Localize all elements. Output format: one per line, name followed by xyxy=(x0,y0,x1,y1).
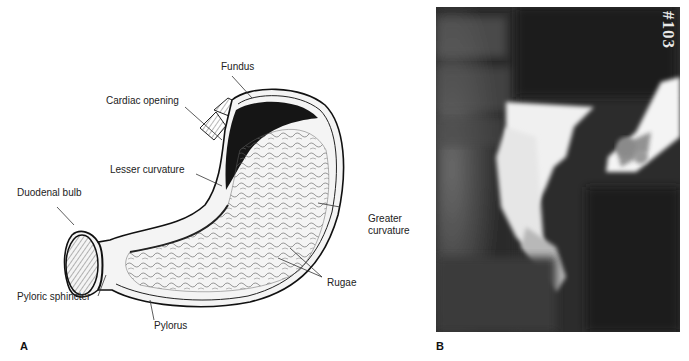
stomach-illustration xyxy=(0,0,430,361)
panel-b-xray: #103 xyxy=(436,7,680,332)
label-fundus: Fundus xyxy=(221,61,254,73)
label-greater-curvature-line1: Greater xyxy=(368,213,402,225)
label-pylorus: Pylorus xyxy=(154,320,187,332)
panel-letter-a: A xyxy=(20,340,28,352)
xray-image xyxy=(436,7,680,332)
label-duodenal-bulb: Duodenal bulb xyxy=(17,187,82,199)
panel-letter-b: B xyxy=(436,340,444,352)
label-rugae: Rugae xyxy=(327,277,356,289)
anatomy-figure: Fundus Cardiac opening Lesser curvature … xyxy=(0,0,689,361)
film-number: #103 xyxy=(658,11,678,49)
label-cardiac-opening: Cardiac opening xyxy=(106,95,179,107)
panel-a-stomach-diagram: Fundus Cardiac opening Lesser curvature … xyxy=(0,0,430,361)
label-greater-curvature-line2: curvature xyxy=(368,225,410,237)
label-lesser-curvature: Lesser curvature xyxy=(110,164,184,176)
label-pyloric-sphincter: Pyloric sphincter xyxy=(17,291,90,303)
